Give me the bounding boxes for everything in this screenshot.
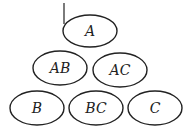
node-b-label: B [31, 100, 42, 116]
node-b: B [10, 91, 64, 125]
node-ac: AC [93, 53, 147, 87]
node-ab-label: AB [48, 60, 70, 76]
node-bc: BC [69, 91, 123, 125]
node-c: C [128, 91, 182, 125]
node-ac-label: AC [108, 62, 131, 78]
node-bc-label: BC [84, 100, 107, 116]
node-a-label: A [83, 23, 95, 39]
diagram-canvas: A AB AC B BC C [0, 0, 194, 135]
node-c-label: C [150, 100, 161, 116]
node-ab: AB [33, 51, 87, 85]
node-a: A [63, 15, 117, 47]
